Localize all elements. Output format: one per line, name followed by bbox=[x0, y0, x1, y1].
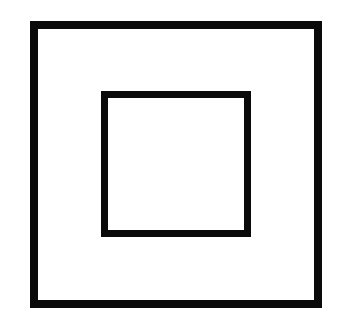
double-insulation-symbol bbox=[0, 0, 339, 325]
inner-square bbox=[101, 91, 251, 237]
